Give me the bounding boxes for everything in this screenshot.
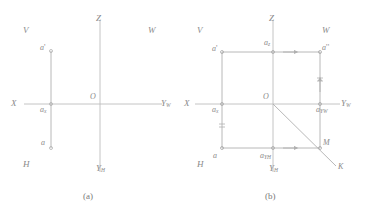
panel-b-point-a-yw: aYW [316,106,328,115]
panel-a-point-a-prime: a' [40,44,46,52]
panel-a-label-h: H [23,160,30,169]
panel-a-axis-yh: YH [96,164,105,174]
panel-a-point-a-x: ax [40,106,46,115]
panel-a-label-v: V [23,26,29,35]
panel-b-label-v: V [197,26,203,35]
panel-a-point-a: a [41,139,45,147]
panel-b-point-a-x: ax [212,106,218,115]
panel-b-point-a: a [213,152,217,160]
panel-b-axis-yh: YH [269,164,278,174]
panel-b-point-k: K [338,163,343,171]
panel-a-projection-line [50,50,53,150]
panel-a-axis-yw: YW [161,99,171,109]
panel-b-point-a-double-prime: a'' [322,44,329,52]
panel-b-axis-z: Z [269,14,274,23]
panel-b-origin: O [263,93,269,101]
panel-b-point-m: M [323,139,330,147]
caption-a: (a) [83,191,93,201]
panel-b-label-h: H [197,160,204,169]
panel-b-label-w: W [322,26,330,35]
panel-a-origin: O [90,93,96,101]
panel-b-axis-yw: YW [341,99,351,109]
caption-b: (b) [265,191,276,201]
panel-a-axis-z: Z [96,14,101,23]
panel-b-point-a-z: az [264,39,270,48]
panel-b-point-a-prime: a' [212,45,218,53]
panel-b-point-markers [221,51,322,150]
panel-b-tick-marks [219,78,323,127]
panel-b-axis-x: X [184,99,190,108]
panel-a-axis-x: X [11,99,17,108]
panel-b-direction-arrows [283,52,320,148]
panel-b-point-a-yh: aYH [260,152,271,161]
panel-b-construction-box [222,52,320,148]
panel-a-label-w: W [148,26,156,35]
